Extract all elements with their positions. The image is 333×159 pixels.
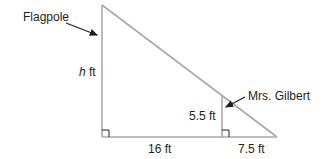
person-label: Mrs. Gilbert <box>248 90 310 102</box>
flagpole-arrow-icon <box>66 23 97 35</box>
height-variable: h <box>79 65 86 79</box>
right-angle-marker-flagpole <box>102 130 109 137</box>
base-distance-label: 16 ft <box>148 143 171 155</box>
shadow-distance-label: 7.5 ft <box>238 143 265 155</box>
flagpole-label: Flagpole <box>23 11 69 23</box>
flagpole-height-label: h ft <box>79 66 96 78</box>
person-height-label: 5.5 ft <box>189 110 216 122</box>
height-unit: ft <box>86 65 96 79</box>
right-angle-marker-person <box>222 130 229 137</box>
